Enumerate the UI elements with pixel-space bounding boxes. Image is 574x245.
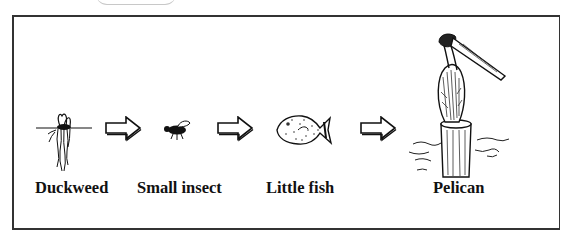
fish-icon [274, 112, 334, 148]
arrow-right-icon [104, 116, 144, 142]
node-label-pelican: Pelican [433, 178, 484, 198]
pelican-icon [405, 32, 515, 182]
arrow-right-icon [359, 116, 399, 142]
insect-icon [163, 119, 193, 141]
scan-artifact-line [96, 0, 176, 5]
node-label-small-insect: Small insect [137, 178, 222, 198]
node-label-little-fish: Little fish [266, 178, 334, 198]
arrow-right-icon [216, 116, 256, 142]
node-label-duckweed: Duckweed [35, 178, 108, 198]
duckweed-plant-icon [34, 110, 94, 175]
